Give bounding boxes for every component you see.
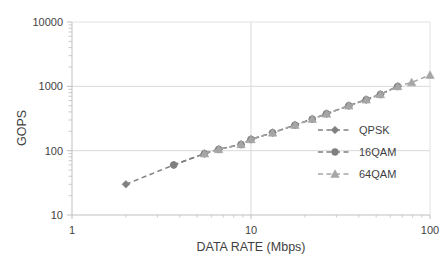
- data-point: [170, 162, 177, 169]
- x-tick-label: 1: [69, 224, 75, 236]
- y-axis-title: GOPS: [15, 110, 29, 146]
- y-tick-label: 10000: [32, 16, 63, 28]
- x-tick-label: 100: [421, 224, 439, 236]
- log-log-line-chart: 10100100010000110100 DATA RATE (Mbps) GO…: [0, 0, 447, 264]
- x-axis-title: DATA RATE (Mbps): [196, 240, 305, 254]
- y-tick-label: 100: [45, 145, 63, 157]
- legend-label: 64QAM: [359, 168, 396, 180]
- legend-label: 16QAM: [359, 146, 396, 158]
- legend-label: QPSK: [359, 124, 390, 136]
- legend-circle-marker: [332, 149, 339, 156]
- chart-container: 10100100010000110100 DATA RATE (Mbps) GO…: [0, 0, 447, 264]
- y-tick-label: 1000: [39, 80, 63, 92]
- x-tick-label: 10: [245, 224, 257, 236]
- y-tick-label: 10: [51, 209, 63, 221]
